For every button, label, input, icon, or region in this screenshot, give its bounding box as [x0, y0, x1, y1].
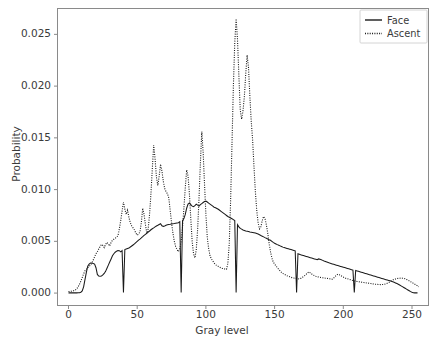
data-series-group [68, 19, 418, 293]
x-tick-label: 50 [117, 308, 157, 320]
x-axis-label: Gray level [0, 324, 444, 336]
y-tick-label: 0.020 [7, 79, 51, 91]
x-tick-label: 200 [323, 308, 363, 320]
series-line-face [68, 201, 417, 293]
series-line-ascent [68, 19, 418, 292]
x-tick-label: 100 [186, 308, 226, 320]
x-tick-label: 150 [255, 308, 295, 320]
y-tick-label: 0.005 [7, 234, 51, 246]
y-tick-label: 0.000 [7, 286, 51, 298]
legend-label-ascent: Ascent [387, 28, 420, 39]
y-tick-label: 0.010 [7, 183, 51, 195]
y-tick-label: 0.015 [7, 131, 51, 143]
y-axis-label: Probability [10, 94, 22, 214]
figure-canvas: FaceAscent Gray level Probability 050100… [0, 0, 444, 347]
axes-frame [58, 9, 429, 306]
chart-plot-area: FaceAscent [0, 0, 444, 347]
y-tick-label: 0.025 [7, 27, 51, 39]
legend-label-face: Face [387, 15, 409, 26]
x-tick-label: 250 [392, 308, 432, 320]
x-tick-label: 0 [48, 308, 88, 320]
